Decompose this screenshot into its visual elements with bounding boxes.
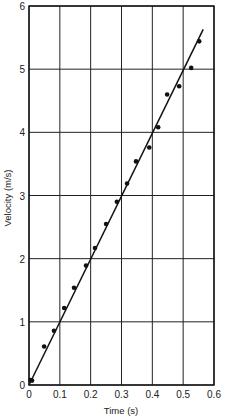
y-tick-label: 6 [19,1,25,12]
data-point [197,39,202,44]
y-tick-label: 2 [19,254,25,265]
data-point [134,159,139,164]
y-tick-label: 0 [19,380,25,391]
data-point [84,263,89,268]
y-tick-label: 1 [19,317,25,328]
data-point [30,378,35,383]
data-point [93,246,98,251]
velocity-time-chart: 0123456 00.10.20.30.40.50.6 Time (s) Vel… [0,0,225,420]
y-axis-ticks: 0123456 [19,1,25,391]
data-point [42,344,47,349]
data-point [189,66,194,71]
data-point [72,285,77,290]
data-point [115,200,120,205]
y-axis-label: Velocity (m/s) [2,169,13,226]
x-tick-label: 0.3 [115,389,129,400]
x-axis-label: Time (s) [104,405,138,416]
x-tick-label: 0.1 [53,389,67,400]
data-point [52,328,57,333]
x-tick-label: 0.2 [84,389,98,400]
data-point [147,145,152,150]
data-point [165,92,170,97]
x-tick-label: 0.4 [145,389,159,400]
x-tick-label: 0 [26,389,32,400]
data-point [125,181,130,186]
data-point [62,306,67,311]
x-axis-ticks: 00.10.20.30.40.50.6 [26,389,221,400]
x-tick-label: 0.6 [207,389,221,400]
data-point [104,222,109,227]
x-tick-label: 0.5 [176,389,190,400]
data-point [177,84,182,89]
y-tick-label: 4 [19,127,25,138]
y-tick-label: 5 [19,64,25,75]
y-tick-label: 3 [19,191,25,202]
data-point [156,125,161,130]
